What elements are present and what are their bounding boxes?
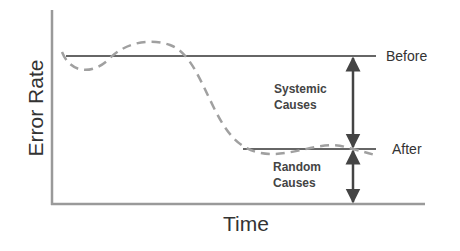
- systemic-causes-line1: Systemic: [274, 81, 327, 97]
- x-axis-label: Time: [223, 212, 269, 236]
- random-causes-line1: Random: [273, 159, 321, 175]
- error-rate-diagram: Error Rate Time Before After Systemic Ca…: [0, 0, 460, 251]
- y-axis-label-text: Error Rate: [24, 60, 48, 157]
- systemic-causes-label: Systemic Causes: [274, 81, 327, 113]
- error-rate-curve: [62, 42, 375, 155]
- before-label: Before: [386, 48, 427, 64]
- systemic-causes-line2: Causes: [274, 97, 327, 113]
- random-causes-line2: Causes: [273, 175, 321, 191]
- after-label: After: [392, 141, 422, 157]
- random-causes-label: Random Causes: [273, 159, 321, 191]
